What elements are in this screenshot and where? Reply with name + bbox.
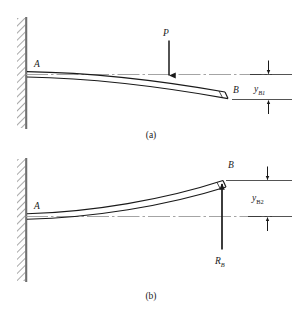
support-label-a-b: A xyxy=(33,201,40,211)
figure-background xyxy=(0,0,301,312)
figure-canvas: P A B yB1 (a) xyxy=(0,0,301,312)
wall-hatch-icon xyxy=(17,17,26,129)
free-end-label-b-a: B xyxy=(233,85,239,95)
wall-hatch-icon-b xyxy=(17,158,26,282)
load-label-p: P xyxy=(162,28,169,38)
caption-b: (b) xyxy=(145,291,156,302)
caption-a: (a) xyxy=(146,130,157,141)
support-label-a: A xyxy=(33,59,40,69)
free-end-label-b-b: B xyxy=(228,160,234,170)
figure-cantilever-deflection: P A B yB1 (a) xyxy=(0,0,301,312)
